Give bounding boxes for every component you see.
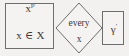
every-x-decision[interactable]: every x bbox=[55, 2, 103, 54]
input-state-box[interactable]: xp′ x ∈ X bbox=[5, 3, 54, 49]
decision-top-label: every bbox=[55, 19, 103, 29]
gamma-label: γ′ bbox=[103, 23, 125, 35]
decision-bottom-label: x bbox=[55, 35, 103, 45]
input-superscript-label: xp′ bbox=[6, 2, 55, 14]
input-superscript-prime: p′ bbox=[31, 1, 36, 9]
gamma-output-box[interactable]: γ′ bbox=[102, 11, 124, 45]
input-membership-label: x ∈ X bbox=[6, 30, 55, 41]
diagram-canvas: xp′ x ∈ X every x γ′ bbox=[0, 0, 129, 56]
gamma-prime: ′ bbox=[116, 22, 118, 30]
